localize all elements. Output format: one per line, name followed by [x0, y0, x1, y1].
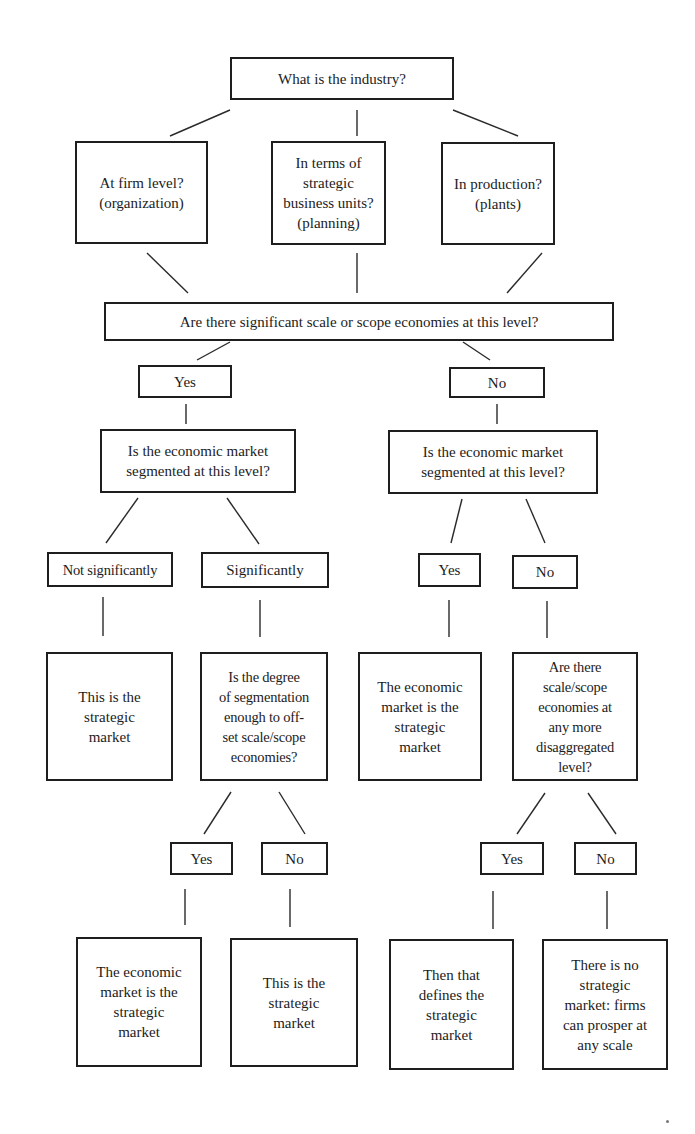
economic-market-outcome-2: The economic market is the strategic mar…	[76, 937, 202, 1067]
scale-scope-question-label: Are there significant scale or scope eco…	[180, 312, 539, 332]
degree-no-label: No	[285, 849, 303, 869]
disaggregated-no-label: No	[596, 849, 614, 869]
degree-of-segmentation-box: Is the degree of segmentation enough to …	[200, 652, 328, 781]
not-significantly-label: Not significantly	[63, 560, 157, 580]
disaggregated-yes-box: Yes	[480, 842, 544, 875]
strategic-market-outcome-2-label: This is the strategic market	[263, 973, 326, 1033]
disaggregated-level-box: Are there scale/scope economies at any m…	[512, 652, 638, 781]
degree-of-segmentation-label: Is the degree of segmentation enough to …	[219, 667, 309, 767]
degree-yes-box: Yes	[170, 842, 233, 875]
economic-market-outcome-1: The economic market is the strategic mar…	[358, 652, 482, 781]
strategic-market-decision-tree: What is the industry? At firm level? (or…	[0, 0, 695, 1134]
disaggregated-yes-label: Yes	[501, 849, 523, 869]
scale-yes-label: Yes	[174, 372, 196, 392]
disaggregated-no-box: No	[574, 842, 637, 875]
root-question-box: What is the industry?	[230, 57, 454, 100]
segmented-no-box: No	[512, 555, 578, 589]
segmented-yes-box: Yes	[418, 553, 481, 587]
segmented-no-label: No	[536, 562, 554, 582]
strategic-market-outcome-2: This is the strategic market	[230, 938, 358, 1067]
segmented-left-box: Is the economic market segmented at this…	[100, 429, 296, 493]
firm-level-box: At firm level? (organization)	[75, 141, 208, 244]
segmented-right-label: Is the economic market segmented at this…	[421, 442, 565, 482]
degree-yes-label: Yes	[191, 849, 213, 869]
no-strategic-market-outcome: There is no strategic market: firms can …	[542, 939, 668, 1070]
scan-artifact-dot	[666, 1120, 669, 1123]
degree-no-box: No	[261, 842, 328, 875]
scale-scope-question-box: Are there significant scale or scope eco…	[104, 302, 614, 341]
defines-strategic-market-outcome: Then that defines the strategic market	[389, 939, 514, 1070]
business-units-label: In terms of strategic business units? (p…	[283, 153, 373, 233]
economic-market-outcome-2-label: The economic market is the strategic mar…	[96, 962, 181, 1042]
segmented-right-box: Is the economic market segmented at this…	[388, 430, 598, 494]
disaggregated-level-label: Are there scale/scope economies at any m…	[536, 657, 614, 777]
segmented-left-label: Is the economic market segmented at this…	[126, 441, 270, 481]
segmented-yes-label: Yes	[439, 560, 461, 580]
production-box: In production? (plants)	[441, 142, 555, 245]
economic-market-outcome-1-label: The economic market is the strategic mar…	[377, 677, 462, 757]
strategic-market-outcome-1-label: This is the strategic market	[78, 687, 141, 747]
production-label: In production? (plants)	[454, 174, 542, 214]
no-strategic-market-label: There is no strategic market: firms can …	[563, 955, 647, 1055]
firm-level-label: At firm level? (organization)	[99, 173, 184, 213]
significantly-label: Significantly	[226, 560, 304, 580]
scale-no-box: No	[449, 367, 545, 398]
scale-no-label: No	[488, 373, 506, 393]
not-significantly-box: Not significantly	[47, 552, 173, 587]
defines-strategic-market-label: Then that defines the strategic market	[419, 965, 484, 1045]
significantly-box: Significantly	[201, 552, 329, 588]
business-units-box: In terms of strategic business units? (p…	[271, 141, 386, 245]
root-question-label: What is the industry?	[278, 69, 406, 89]
strategic-market-outcome-1: This is the strategic market	[46, 652, 173, 781]
scale-yes-box: Yes	[138, 365, 232, 398]
